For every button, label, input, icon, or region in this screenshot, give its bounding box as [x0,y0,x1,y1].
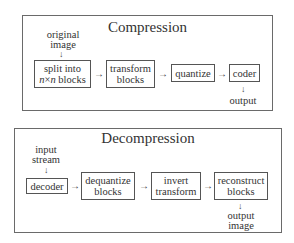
step-line1: reconstruct [218,175,265,186]
arrow-right-icon: → [70,181,80,191]
step-line2: blocks [218,186,265,197]
step-line2: transform [156,186,197,197]
output-image-label: output image [223,211,259,231]
step-line1: invert [156,175,197,186]
label-line: stream [28,155,64,165]
arrow-down-icon: ↓ [59,50,64,59]
step-line1: quantize [175,68,211,79]
step-line1: transform [110,63,151,74]
transform-blocks-step: transform blocks [106,60,155,88]
arrow-down-icon: ↓ [241,85,246,94]
step-line1: split into [39,63,85,74]
quantize-step: quantize [171,64,215,82]
split-blocks-step: split into n×n blocks [34,60,91,88]
step-line1: dequantize [85,175,130,186]
decoder-step: decoder [26,178,68,194]
step-line2: blocks [85,186,130,197]
invert-transform-step: invert transform [151,172,201,200]
arrow-right-icon: → [139,181,149,191]
coder-step: coder [229,64,260,82]
output-label: output [225,96,261,106]
reconstruct-blocks-step: reconstruct blocks [214,172,268,200]
arrow-right-icon: → [94,69,104,79]
original-image-label: original image [40,30,86,50]
label-line: output [225,96,261,106]
step-line2: n×n blocks [39,74,85,85]
input-stream-label: input stream [28,145,64,165]
step-line1: decoder [30,181,63,192]
blocks-text: blocks [56,74,86,85]
step-line1: coder [233,68,256,79]
arrow-right-icon: → [158,69,168,79]
arrow-right-icon: → [217,69,227,79]
arrow-right-icon: → [203,181,213,191]
label-line: image [223,221,259,231]
step-line2: blocks [110,74,151,85]
arrow-down-icon: ↓ [44,166,49,175]
dequantize-blocks-step: dequantize blocks [81,172,135,200]
